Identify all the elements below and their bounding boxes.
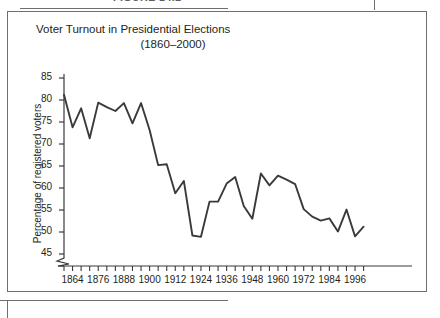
chart-plot-area: Percentage of registered voters 45505560…	[0, 0, 440, 318]
x-axis-tick-label: 1996	[338, 274, 372, 285]
y-axis-tick-label: 80	[32, 93, 52, 104]
y-axis-tick-label: 85	[32, 71, 52, 82]
y-axis-tick-label: 55	[32, 203, 52, 214]
y-axis-tick-label: 60	[32, 181, 52, 192]
turnout-line-series	[64, 95, 364, 237]
chart-svg	[0, 0, 440, 318]
textbook-page: FIGURE 14.2 Voter Turnout in Presidentia…	[0, 0, 440, 318]
chart-axes	[57, 74, 412, 266]
y-axis-tick-label: 45	[32, 247, 52, 258]
y-axis-tick-label: 65	[32, 159, 52, 170]
y-axis-tick-label: 75	[32, 115, 52, 126]
y-axis-tick-label: 50	[32, 225, 52, 236]
y-axis-tick-label: 70	[32, 137, 52, 148]
